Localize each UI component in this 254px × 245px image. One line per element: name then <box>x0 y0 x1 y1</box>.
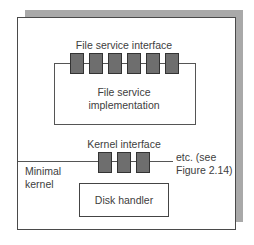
minimal-kernel-label: Minimal kernel <box>25 165 61 191</box>
implementation-line-1: File service <box>97 86 150 98</box>
file-service-port-1 <box>70 53 84 74</box>
file-service-port-6 <box>165 53 179 74</box>
kernel-port-3 <box>136 152 150 173</box>
implementation-line-2: implementation <box>88 99 159 111</box>
frame-shadow-right <box>236 10 243 222</box>
file-service-port-4 <box>127 53 141 74</box>
disk-handler-label: Disk handler <box>79 194 169 206</box>
kernel-port-2 <box>117 152 131 173</box>
etc-see-figure-label: etc. (see Figure 2.14) <box>176 151 233 177</box>
kernel-port-1 <box>98 152 112 173</box>
file-service-port-2 <box>89 53 103 74</box>
file-service-port-3 <box>108 53 122 74</box>
minimal-kernel-line-2: kernel <box>25 178 54 190</box>
file-service-implementation-label: File service implementation <box>54 86 194 112</box>
etc-line-2: Figure 2.14) <box>176 164 233 176</box>
minimal-kernel-line-1: Minimal <box>25 165 61 177</box>
kernel-interface-label: Kernel interface <box>74 138 174 150</box>
file-service-port-5 <box>146 53 160 74</box>
file-service-interface-label: File service interface <box>54 39 194 51</box>
etc-line-1: etc. (see <box>176 151 216 163</box>
